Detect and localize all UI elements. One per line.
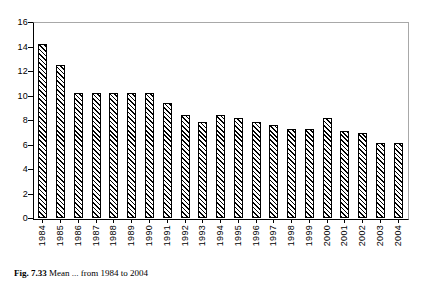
x-axis-tickmark [202,219,203,223]
x-axis-label-slot: 1998 [283,225,301,259]
y-axis-tick-label: 2 [0,189,28,198]
x-axis-label-slot: 1996 [247,225,265,259]
x-axis-label-slot: 1995 [229,225,247,259]
bar-slot [354,22,372,218]
bar-slot [372,22,390,218]
bar-slot [34,22,52,218]
x-axis-label-slot: 1991 [158,225,176,259]
bar-slot [141,22,159,218]
x-axis-tickmark [78,219,79,223]
x-axis-tick-label: 1999 [305,225,314,246]
x-axis-tick-label: 1987 [92,225,101,246]
x-axis-label-slot: 2000 [318,225,336,259]
bar-slot [265,22,283,218]
x-axis-tickmark [60,219,61,223]
bar [340,131,349,218]
figure: 0246810121416 19841985198619871988198919… [0,0,428,281]
x-axis-tickmark [256,219,257,223]
y-axis: 0246810121416 [0,22,28,218]
y-axis-tickmark [28,120,33,121]
bar-slot [247,22,265,218]
x-axis-tickmark [362,219,363,223]
x-axis: 1984198519861987198819891990199119921993… [34,225,407,259]
bar-slot [229,22,247,218]
x-axis-tick-slot [265,219,283,224]
y-axis-tickmark [28,71,33,72]
x-axis-tick-slot [87,219,105,224]
caption-label: Fig. 7.33 [14,268,47,278]
x-axis-tickmark [149,219,150,223]
x-axis-tick-slot [354,219,372,224]
bar [127,93,136,218]
bar [92,93,101,218]
bar [74,93,83,218]
bar [358,133,367,218]
y-axis-tick-label: 6 [0,140,28,149]
x-axis-tick-label: 2004 [394,225,403,246]
x-axis-label-slot: 1999 [300,225,318,259]
bar [323,118,332,218]
x-axis-tick-slot [176,219,194,224]
x-axis-tick-slot [105,219,123,224]
y-axis-tick-label: 4 [0,165,28,174]
bar [305,129,314,218]
y-axis-tick-label: 16 [0,18,28,27]
x-axis-tick-label: 1985 [56,225,65,246]
bar-slot [70,22,88,218]
x-axis-tick-slot [229,219,247,224]
x-axis-tick-slot [372,219,390,224]
x-axis-label-slot: 2004 [389,225,407,259]
x-axis-tickmark [42,219,43,223]
bar-slot [212,22,230,218]
x-axis-label-slot: 1994 [212,225,230,259]
x-axis-tick-label: 1996 [252,225,261,246]
x-axis-tick-slot [336,219,354,224]
bar [181,115,190,218]
x-axis-tickmark [273,219,274,223]
bar-slot [300,22,318,218]
x-axis-tick-label: 1990 [145,225,154,246]
x-axis-label-slot: 1993 [194,225,212,259]
x-axis-tick-slot [141,219,159,224]
bar-slot [87,22,105,218]
x-axis-label-slot: 1989 [123,225,141,259]
bar-slot [336,22,354,218]
x-axis-tick-slot [389,219,407,224]
bar [163,103,172,218]
bar [269,125,278,218]
x-axis-tick-slot [318,219,336,224]
x-axis-tickmark [220,219,221,223]
y-axis-tickmark [28,47,33,48]
x-axis-tick-slot [158,219,176,224]
bar-slot [318,22,336,218]
x-axis-tick-slot [194,219,212,224]
bar [234,118,243,218]
x-axis-tick-label: 1997 [269,225,278,246]
x-axis-tickmark [167,219,168,223]
x-axis-tickmark [309,219,310,223]
x-axis-tick-label: 1989 [127,225,136,246]
x-axis-tick-slot [123,219,141,224]
x-axis-label-slot: 1987 [87,225,105,259]
y-axis-tickmark [28,218,33,219]
x-axis-label-slot: 1986 [70,225,88,259]
x-axis-tick-label: 1988 [109,225,118,246]
x-axis-tick-slot [70,219,88,224]
x-axis-tick-label: 1986 [74,225,83,246]
bar [145,93,154,218]
bar [287,129,296,218]
y-axis-tickmark [28,145,33,146]
bar-slot [52,22,70,218]
bar-slot [158,22,176,218]
y-axis-tick-label: 14 [0,42,28,51]
y-axis-tick-label: 0 [0,214,28,223]
x-axis-tick-label: 1992 [181,225,190,246]
x-axis-tick-slot [300,219,318,224]
x-axis-label-slot: 1997 [265,225,283,259]
x-axis-tickmark [344,219,345,223]
x-axis-tick-label: 2003 [376,225,385,246]
x-axis-tick-label: 2000 [323,225,332,246]
x-axis-tick-label: 2002 [358,225,367,246]
x-axis-tick-label: 2001 [340,225,349,246]
x-axis-tick-label: 1998 [287,225,296,246]
